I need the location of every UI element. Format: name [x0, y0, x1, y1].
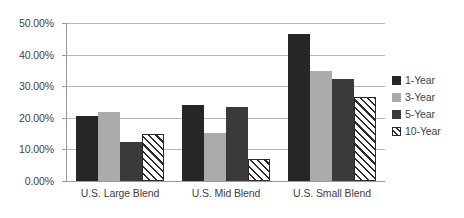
legend-swatch-icon — [392, 127, 401, 136]
bars-layer — [67, 23, 385, 181]
category-label: U.S. Small Blend — [279, 187, 385, 199]
y-tick-mark — [62, 149, 67, 150]
bar — [182, 105, 204, 181]
bar — [76, 116, 98, 181]
y-tick-mark — [62, 86, 67, 87]
category-label: U.S. Large Blend — [67, 187, 173, 199]
y-tick-label: 10.00% — [19, 144, 54, 154]
bar — [310, 71, 332, 181]
legend-swatch-icon — [392, 110, 401, 119]
legend: 1-Year3-Year5-Year10-Year — [392, 72, 464, 140]
legend-swatch-icon — [392, 93, 401, 102]
plot-area — [67, 23, 385, 181]
legend-label: 1-Year — [405, 75, 435, 86]
y-axis: 0.00%10.00%20.00%30.00%40.00%50.00% — [0, 0, 63, 218]
bar — [142, 134, 164, 181]
bar — [204, 133, 226, 181]
y-tick-mark — [62, 55, 67, 56]
y-tick-mark — [62, 118, 67, 119]
x-axis-line — [67, 181, 385, 182]
legend-label: 5-Year — [405, 109, 435, 120]
legend-swatch-icon — [392, 76, 401, 85]
legend-label: 3-Year — [405, 92, 435, 103]
y-tick-label: 50.00% — [19, 18, 54, 28]
legend-item[interactable]: 1-Year — [392, 72, 464, 88]
y-tick-mark — [62, 181, 67, 182]
y-tick-mark — [62, 23, 67, 24]
bar — [332, 79, 354, 181]
bar — [98, 112, 120, 181]
category-label: U.S. Mid Blend — [173, 187, 279, 199]
legend-item[interactable]: 10-Year — [392, 123, 464, 139]
bar — [248, 159, 270, 181]
legend-label: 10-Year — [405, 126, 441, 137]
bar — [354, 97, 376, 181]
bar — [288, 34, 310, 181]
y-tick-label: 30.00% — [19, 81, 54, 91]
bar — [120, 142, 142, 181]
y-tick-label: 40.00% — [19, 50, 54, 60]
legend-item[interactable]: 3-Year — [392, 89, 464, 105]
y-tick-label: 0.00% — [25, 176, 54, 186]
bar-chart: 0.00%10.00%20.00%30.00%40.00%50.00% U.S.… — [0, 0, 464, 218]
y-tick-label: 20.00% — [19, 113, 54, 123]
bar — [226, 107, 248, 181]
legend-item[interactable]: 5-Year — [392, 106, 464, 122]
x-axis-category-labels: U.S. Large BlendU.S. Mid BlendU.S. Small… — [67, 187, 385, 207]
